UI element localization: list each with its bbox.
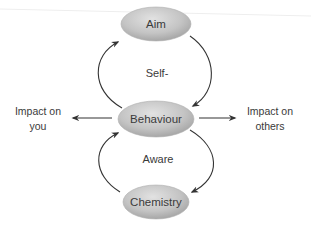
node-aim: Aim bbox=[121, 7, 195, 42]
loop-label-upper: Self- bbox=[146, 67, 169, 79]
node-behaviour-label: Behaviour bbox=[130, 113, 182, 125]
arc-chemistry-to-behaviour bbox=[99, 133, 120, 192]
side-label-right-line2: others bbox=[255, 120, 284, 132]
node-chemistry-label: Chemistry bbox=[130, 196, 182, 208]
arc-behaviour-to-chemistry bbox=[190, 130, 214, 192]
self-awareness-cycle-diagram: Aim Behaviour Chemistry Self- Aware Impa… bbox=[0, 0, 311, 236]
arc-aim-to-behaviour bbox=[190, 36, 211, 106]
side-label-left-line1: Impact on bbox=[15, 105, 61, 117]
node-aim-label: Aim bbox=[146, 18, 166, 30]
side-label-right-line1: Impact on bbox=[247, 105, 293, 117]
side-label-left-line2: you bbox=[30, 120, 47, 132]
node-chemistry: Chemistry bbox=[123, 185, 192, 220]
loop-label-lower: Aware bbox=[143, 153, 174, 165]
node-behaviour: Behaviour bbox=[118, 101, 197, 138]
arc-behaviour-to-aim bbox=[98, 42, 122, 108]
